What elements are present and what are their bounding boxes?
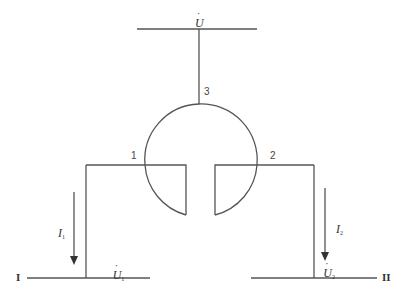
top-voltage-label: U [195,16,207,30]
bus-I-name: I [16,272,20,283]
bus-II-voltage-symbol: U [323,266,332,280]
node-1-label: 1 [131,151,137,161]
right-inner-bracket [215,165,314,215]
current-arrow-1-head [70,256,78,265]
current-1-subscript: 1 [62,234,65,240]
top-voltage-symbol: U [195,16,204,30]
current-2-subscript: 2 [340,230,343,236]
circuit-drawing [0,0,398,297]
diagram-canvas: U 3 1 2 I1 I2 U1 U2 I II [0,0,398,297]
bus-II-name: II [382,272,391,283]
bus-I-voltage-label: U1 [113,268,128,282]
node-3-label: 3 [204,87,210,97]
node-2-label: 2 [270,151,276,161]
bus-II-voltage-subscript: 2 [332,274,335,280]
circular-element-left-half [145,104,199,215]
current-2-label: I2 [336,223,343,236]
current-1-label: I1 [58,227,65,240]
circular-element-right-half [199,104,257,215]
bus-I-voltage-subscript: 1 [121,276,124,282]
left-inner-bracket [86,165,186,215]
bus-II-voltage-label: U2 [323,266,335,280]
